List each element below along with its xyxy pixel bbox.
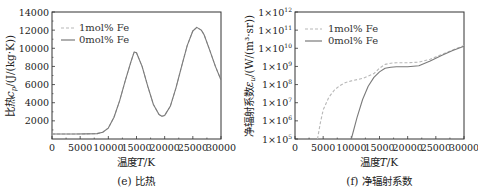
left-legend: 1mol% Fe 0mol% Fe (61, 22, 129, 45)
right-y-axis-ticks: 1×1051×1061×1071×1081×1091×10101×10111×1… (258, 6, 298, 145)
right-x-axis-label: 温度T/K (360, 156, 399, 168)
x-tick-label: 5000 (311, 142, 335, 153)
x-tick-label: 0 (292, 142, 298, 153)
y-tick-label: 1×106 (262, 114, 292, 126)
y-tick-label: 1×109 (262, 60, 292, 72)
right-y-axis-label: 净辐射系数εu/(W/(m³·sr)) (243, 15, 257, 137)
y-tick-label: 12000 (19, 25, 49, 36)
y-tick-label: 8000 (25, 61, 49, 72)
x-tick-label: 25000 (178, 142, 208, 153)
series-1mol-fe-line (318, 46, 465, 139)
x-tick-label: 25000 (421, 142, 451, 153)
x-tick-label: 30000 (206, 142, 236, 153)
y-tick-label: 1×1012 (258, 6, 292, 18)
left-caption: (e) 比热 (117, 175, 156, 187)
x-tick-label: 15000 (364, 142, 394, 153)
right-plot-frame (295, 12, 464, 139)
series-0mol-fe-line (52, 27, 221, 134)
y-tick-label: 1×1010 (258, 42, 292, 54)
y-tick-label: 1×108 (262, 78, 292, 90)
x-tick-label: 20000 (150, 142, 180, 153)
x-tick-label: 10000 (336, 142, 366, 153)
x-tick-label: 0 (49, 142, 55, 153)
y-tick-label: 2000 (25, 115, 49, 126)
y-tick-label: 1×107 (262, 96, 292, 108)
left-series-lines (52, 27, 221, 134)
series-0mol-fe-line (351, 46, 464, 139)
y-tick-label: 6000 (25, 79, 49, 90)
y-tick-label: 4000 (25, 97, 49, 108)
y-tick-label: 1×1011 (258, 24, 292, 36)
left-y-axis-label: 比热cp/(J/(kg·K)) (4, 35, 18, 117)
y-tick-label: 1×105 (262, 133, 292, 145)
left-legend-0mol: 0mol% Fe (79, 34, 129, 45)
figure: 050001000015000200002500030000 200040006… (0, 0, 478, 194)
left-legend-1mol: 1mol% Fe (79, 22, 129, 33)
right-legend: 1mol% Fe 0mol% Fe (305, 23, 378, 46)
specific-heat-chart: 050001000015000200002500030000 200040006… (4, 7, 236, 188)
left-plot-frame (52, 12, 221, 139)
right-legend-1mol: 1mol% Fe (328, 23, 378, 34)
net-emission-chart: 050001000015000200002500030000 1×1051×10… (243, 6, 478, 188)
x-tick-label: 20000 (393, 142, 423, 153)
left-y-axis-ticks: 2000400060008000100001200014000 (19, 7, 55, 130)
right-caption: (f) 净辐射系数 (346, 175, 412, 187)
x-tick-label: 5000 (68, 142, 92, 153)
left-x-axis-label: 温度T/K (117, 156, 156, 168)
right-series-lines (318, 46, 465, 139)
x-tick-label: 30000 (449, 142, 478, 153)
right-legend-0mol: 0mol% Fe (328, 35, 378, 46)
series-1mol-fe-line (52, 27, 221, 134)
y-tick-label: 14000 (19, 7, 49, 18)
y-tick-label: 10000 (19, 43, 49, 54)
x-tick-label: 15000 (121, 142, 151, 153)
x-tick-label: 10000 (93, 142, 123, 153)
